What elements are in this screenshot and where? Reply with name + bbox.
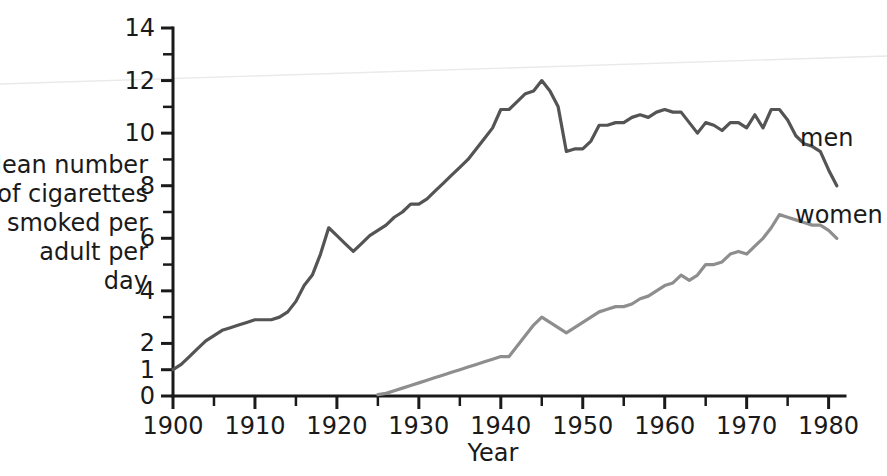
x-tick-label: 1970	[716, 412, 777, 440]
data-series-group	[173, 81, 837, 395]
series-label-men: men	[800, 124, 853, 152]
x-tick-label: 1940	[470, 412, 531, 440]
y-axis-ticks	[161, 28, 173, 396]
chart-container: 012468101214 190019101920193019401950196…	[0, 0, 887, 476]
y-tick-label: 12	[124, 67, 155, 95]
series-line-women	[378, 215, 837, 395]
x-tick-label: 1920	[306, 412, 367, 440]
y-tick-label: 0	[140, 382, 155, 410]
series-labels-group: menwomen	[795, 124, 883, 229]
y-axis-title: Mean numberof cigarettessmoked peradult …	[0, 151, 148, 295]
x-axis-title-label: Year	[467, 439, 519, 467]
x-tick-label: 1900	[142, 412, 203, 440]
y-axis-title-line: of cigarettes	[0, 180, 148, 208]
x-axis-ticks	[173, 396, 829, 409]
x-tick-label: 1960	[634, 412, 695, 440]
y-tick-label: 14	[124, 14, 155, 42]
series-label-women: women	[795, 201, 883, 229]
x-tick-label: 1950	[552, 412, 613, 440]
cigarette-consumption-line-chart: 012468101214 190019101920193019401950196…	[0, 0, 887, 476]
y-axis-title-line: adult per	[39, 238, 148, 266]
y-axis-title-line: smoked per	[7, 209, 148, 237]
x-tick-label: 1980	[798, 412, 859, 440]
x-axis: 190019101920193019401950196019701980	[142, 396, 859, 440]
x-axis-tick-labels: 190019101920193019401950196019701980	[142, 412, 859, 440]
x-tick-label: 1930	[388, 412, 449, 440]
y-tick-label: 10	[124, 119, 155, 147]
x-tick-label: 1910	[224, 412, 285, 440]
y-tick-label: 2	[140, 329, 155, 357]
y-axis-title-line: Mean number	[0, 151, 148, 179]
y-axis-title-line: day	[104, 267, 148, 295]
series-line-men	[173, 81, 837, 370]
y-tick-label: 1	[140, 356, 155, 384]
